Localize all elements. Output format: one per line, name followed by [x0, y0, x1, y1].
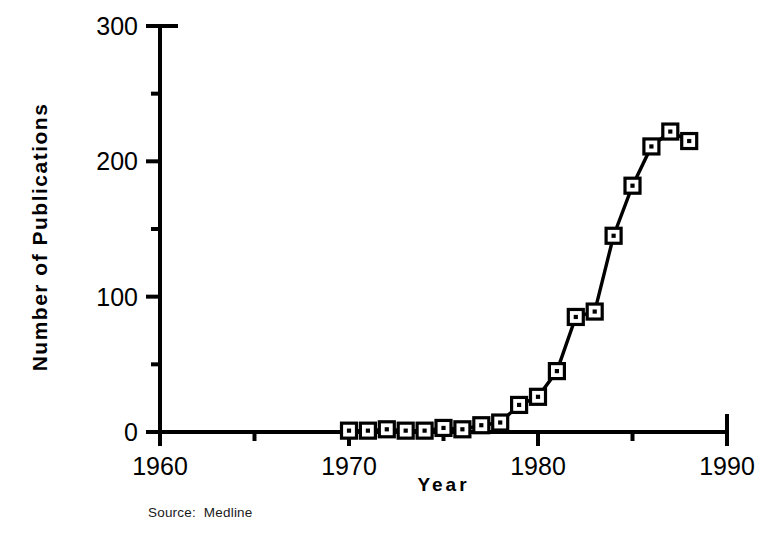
y-tick-label: 100: [96, 283, 138, 311]
data-point-marker: [455, 422, 470, 437]
y-tick-label: 0: [124, 418, 138, 446]
x-tick-label: 1970: [321, 452, 377, 480]
marker-center-dot: [441, 426, 445, 430]
data-point-marker: [644, 139, 659, 154]
series-markers: [342, 124, 697, 438]
marker-center-dot: [366, 429, 370, 433]
data-point-marker: [549, 364, 564, 379]
data-point-marker: [436, 420, 451, 435]
marker-center-dot: [668, 129, 672, 133]
data-point-marker: [531, 389, 546, 404]
data-point-marker: [493, 415, 508, 430]
data-point-marker: [512, 397, 527, 412]
plot-area: 0100200300 1960197019801990: [0, 0, 775, 554]
marker-center-dot: [347, 429, 351, 433]
y-tick-label: 300: [96, 12, 138, 40]
y-axis-ticks: [146, 26, 160, 432]
x-tick-label: 1990: [699, 452, 755, 480]
data-point-marker: [568, 309, 583, 324]
data-point-marker: [342, 423, 357, 438]
y-axis-tick-labels: 0100200300: [96, 12, 138, 446]
data-point-marker: [474, 418, 489, 433]
series-polyline: [349, 132, 689, 431]
data-point-marker: [682, 134, 697, 149]
marker-center-dot: [517, 403, 521, 407]
data-point-marker: [663, 124, 678, 139]
data-point-marker: [625, 178, 640, 193]
marker-center-dot: [404, 429, 408, 433]
x-axis-tick-labels: 1960197019801990: [132, 452, 755, 480]
marker-center-dot: [460, 427, 464, 431]
data-point-marker: [606, 228, 621, 243]
data-point-marker: [398, 423, 413, 438]
marker-center-dot: [498, 420, 502, 424]
marker-center-dot: [479, 423, 483, 427]
marker-center-dot: [687, 139, 691, 143]
marker-center-dot: [423, 429, 427, 433]
marker-center-dot: [555, 369, 559, 373]
x-tick-label: 1980: [510, 452, 566, 480]
data-point-marker: [379, 422, 394, 437]
axis-spines: [160, 26, 727, 432]
marker-center-dot: [593, 309, 597, 313]
data-point-marker: [360, 423, 375, 438]
chart-figure: Number of Publications Year Source: Medl…: [0, 0, 775, 554]
data-point-marker: [587, 304, 602, 319]
y-tick-label: 200: [96, 147, 138, 175]
x-tick-label: 1960: [132, 452, 188, 480]
marker-center-dot: [630, 184, 634, 188]
marker-center-dot: [385, 427, 389, 431]
marker-center-dot: [612, 234, 616, 238]
data-point-marker: [417, 423, 432, 438]
marker-center-dot: [574, 315, 578, 319]
marker-center-dot: [649, 144, 653, 148]
series-line: [349, 132, 689, 431]
marker-center-dot: [536, 395, 540, 399]
